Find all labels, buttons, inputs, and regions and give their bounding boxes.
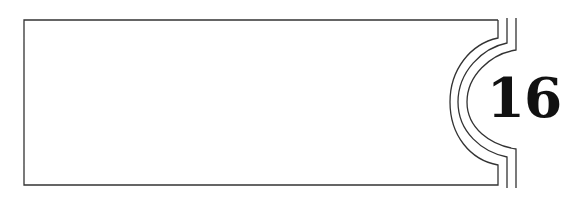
chapter-number: 16 [486, 66, 562, 130]
frame-inner-line [24, 20, 498, 185]
